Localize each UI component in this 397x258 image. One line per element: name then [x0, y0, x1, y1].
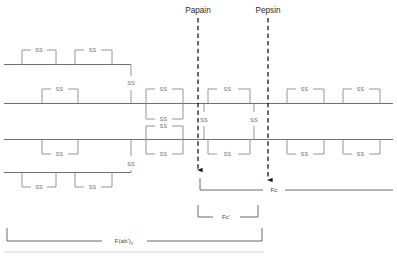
ss-bond-interchain-light-heavy-upper: SS: [127, 65, 135, 104]
pepsin-label: Pepsin: [255, 6, 280, 15]
ss-bond-light-upper-1: SS: [22, 47, 56, 64]
ss-bond-heavy-lower-2-top: SS: [146, 123, 183, 140]
ss-label: SS: [127, 80, 135, 86]
fab2-label-subscript: 2: [131, 241, 134, 246]
ss-label: SS: [301, 86, 309, 92]
ss-label: SS: [160, 123, 168, 129]
ss-bond-heavy-lower-2-bottom: SS: [146, 140, 183, 158]
fragment-bracket-fc: Fc: [200, 178, 393, 193]
ss-bond-light-lower-1: SS: [22, 173, 56, 191]
ss-bond-heavy-lower-4: SS: [287, 140, 324, 158]
ss-bond-heavy-upper-4: SS: [287, 86, 324, 103]
ss-bond-light-upper-2: SS: [75, 47, 112, 64]
ss-label: SS: [160, 151, 168, 157]
fc-prime-label: Fc': [222, 213, 230, 220]
ss-label: SS: [160, 116, 168, 122]
ss-label: SS: [301, 151, 309, 157]
ss-bond-heavy-lower-5: SS: [343, 140, 380, 158]
ss-label: SS: [35, 184, 43, 190]
cleavage-site-pepsin: Pepsin: [255, 6, 280, 180]
ss-label: SS: [56, 151, 64, 157]
ss-label: SS: [200, 117, 208, 123]
ss-bond-heavy-upper-2-bottom: SS: [146, 104, 183, 123]
ss-label: SS: [224, 151, 232, 157]
papain-label: Papain: [185, 6, 211, 15]
cleavage-site-papain: Papain: [185, 6, 211, 170]
caption-cutoff: [4, 251, 264, 253]
ss-label: SS: [56, 86, 64, 92]
ss-label: SS: [250, 117, 258, 123]
fc-label: Fc: [271, 186, 278, 193]
ss-bond-heavy-lower-3: SS: [208, 140, 250, 158]
ss-bond-heavy-upper-3: SS: [208, 86, 250, 103]
fragment-bracket-fab2: F(ab')2: [7, 228, 262, 246]
ss-bond-interchain-light-heavy-lower: SS: [127, 140, 135, 173]
fragment-bracket-fc-prime: Fc': [198, 205, 258, 220]
ss-label: SS: [35, 47, 43, 53]
fab2-label-main: F(ab'): [115, 237, 131, 244]
ss-label: SS: [127, 161, 135, 167]
ss-label: SS: [357, 151, 365, 157]
ss-bond-heavy-upper-5: SS: [343, 86, 380, 103]
ss-bond-light-lower-2: SS: [75, 173, 112, 191]
ss-label: SS: [224, 86, 232, 92]
ss-label: SS: [160, 86, 168, 92]
ss-label: SS: [357, 86, 365, 92]
ss-bond-heavy-upper-2-top: SS: [146, 86, 183, 103]
fab2-label: F(ab')2: [115, 237, 134, 246]
ss-label: SS: [89, 184, 97, 190]
ss-bond-heavy-lower-1: SS: [42, 140, 78, 158]
ss-label: SS: [89, 47, 97, 53]
ss-bond-hinge-1: SS: [200, 104, 208, 140]
ss-bond-heavy-upper-1: SS: [42, 86, 78, 103]
ss-bond-hinge-2: SS: [250, 104, 258, 140]
figure-canvas: SS SS SS SS SS SS SS SS SS: [0, 0, 397, 258]
